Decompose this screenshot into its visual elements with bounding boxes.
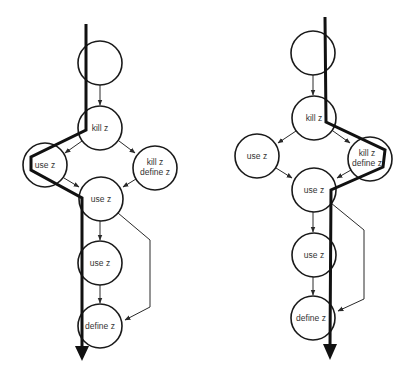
node-label: define z [352, 158, 382, 168]
node-label: use z [304, 185, 324, 195]
left-path-arrowhead-icon [75, 346, 89, 361]
right-path-arrowhead-icon [323, 344, 337, 360]
data-flow-diagrams: kill z use z kill z define z use z use z… [0, 0, 417, 379]
right-node-define-z: define z [291, 296, 335, 340]
right-node-use-z-merge: use z [292, 168, 336, 212]
node-label: use z [91, 194, 111, 204]
node-label: use z [35, 160, 55, 170]
right-diagram: kill z use z kill z define z use z use z… [235, 17, 392, 360]
node-label: use z [90, 258, 110, 268]
node-label: define z [140, 167, 170, 177]
node-label: use z [247, 151, 267, 161]
edge-use-left-to-use [64, 178, 79, 187]
edge-killdefine-to-use [337, 170, 351, 178]
edge-killdefine-to-use [123, 179, 136, 187]
node-label: kill z [359, 148, 376, 158]
edge-use-left-to-use [276, 168, 292, 178]
node-label: kill z [92, 123, 109, 133]
edge-kill-to-killdefine [119, 141, 135, 153]
node-label: kill z [306, 113, 323, 123]
edge-use-bypass-to-define [118, 213, 150, 320]
node-label: define z [85, 321, 115, 331]
edge-kill-to-use-left [278, 131, 296, 143]
right-node-use-z-branch: use z [235, 134, 279, 178]
node-label: use z [304, 250, 324, 260]
left-node-define-z: define z [78, 304, 122, 348]
left-node-kill-define-z: kill z define z [133, 146, 177, 190]
right-node-kill-z: kill z [292, 96, 336, 140]
edge-kill-to-use-left [65, 141, 82, 153]
node-label: define z [296, 313, 326, 323]
right-node-entry [291, 31, 335, 75]
left-node-use-z-merge: use z [79, 177, 123, 221]
node-label: kill z [147, 157, 164, 167]
left-diagram: kill z use z kill z define z use z use z… [23, 24, 177, 361]
left-node-use-z-lower: use z [78, 241, 122, 285]
